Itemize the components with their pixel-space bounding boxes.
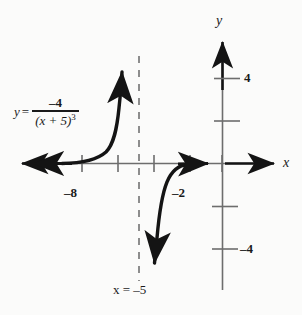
equation-equals-sign: = [22, 105, 29, 118]
function-equation-label: y = –4 (x + 5)3 [14, 96, 79, 127]
equation-lhs: y [14, 105, 20, 118]
equation-fraction: –4 (x + 5)3 [32, 96, 79, 127]
y-tick-label-neg4: –4 [240, 242, 253, 255]
equation-numerator: –4 [45, 96, 66, 110]
curve-right-branch [155, 164, 209, 264]
x-tick-label-neg2: –2 [172, 186, 185, 199]
right-branch-right-arrow [178, 164, 208, 165]
equation-denominator-base: (x + 5) [35, 113, 71, 128]
y-axis-label: y [216, 14, 222, 28]
x-tick-label-neg8: –8 [64, 186, 77, 199]
equation-denominator: (x + 5)3 [32, 112, 79, 127]
y-tick-label-4: 4 [244, 71, 251, 84]
graph-canvas [0, 0, 302, 315]
asymptote-label: x = –5 [113, 283, 146, 296]
x-axis-label: x [283, 156, 289, 170]
equation-denominator-exponent: 3 [71, 112, 76, 122]
right-branch-path [155, 165, 189, 264]
